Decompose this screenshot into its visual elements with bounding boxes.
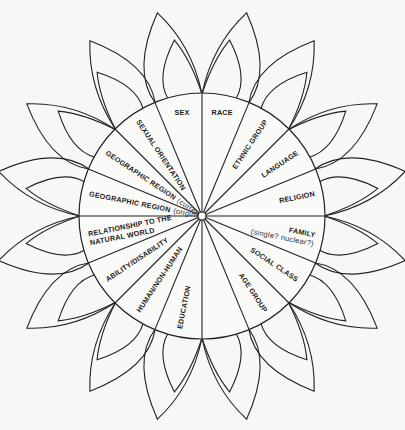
petal-outer: [202, 13, 260, 104]
petal-outer: [144, 329, 202, 420]
center-hub: [198, 212, 206, 220]
petal-inner: [319, 216, 378, 255]
petal-inner: [202, 333, 241, 392]
petal-inner: [26, 216, 85, 255]
identity-wheel-diagram: RACEETHNIC GROUPLANGUAGERELIGIONFAMILY(s…: [0, 0, 405, 430]
petal-outer: [315, 216, 405, 274]
petal-inner: [163, 40, 202, 99]
sector-label-15: SEX: [174, 108, 189, 117]
petal-inner: [319, 177, 378, 216]
petal-outer: [0, 216, 89, 274]
petal-outer: [315, 158, 405, 216]
petal-inner: [202, 40, 241, 99]
petal-outer: [144, 13, 202, 104]
sector-label-text: SEX: [174, 108, 189, 117]
petal-outer: [0, 158, 89, 216]
sector-label-text: RACE: [212, 108, 233, 117]
petal-outer: [202, 329, 260, 420]
petal-inner: [26, 177, 85, 216]
petal-inner: [163, 333, 202, 392]
sector-label-0: RACE: [212, 108, 233, 117]
